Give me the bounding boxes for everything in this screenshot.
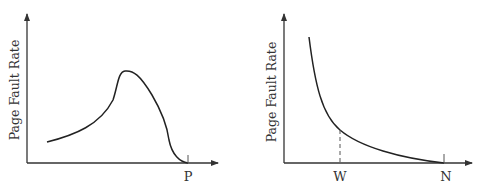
diagram: P Page Fault Rate W N Page Fault Rate	[0, 0, 482, 191]
n-label: N	[440, 169, 451, 184]
right-y-label: Page Fault Rate	[264, 42, 279, 143]
p-label: P	[184, 169, 193, 184]
right-curve	[309, 37, 444, 163]
left-curve	[47, 71, 188, 163]
left-chart: P Page Fault Rate	[7, 14, 218, 184]
right-chart: W N Page Fault Rate	[264, 14, 472, 184]
left-y-label: Page Fault Rate	[7, 40, 22, 141]
w-label: W	[333, 169, 347, 184]
